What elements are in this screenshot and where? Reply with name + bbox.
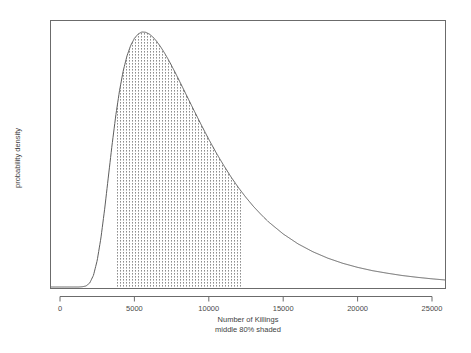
x-axis-subtitle: middle 80% shaded (215, 325, 281, 334)
y-axis-title: probability density (13, 128, 22, 188)
x-tick-label: 5000 (126, 304, 143, 313)
x-axis-title: Number of Killings (218, 315, 279, 324)
density-plot-figure: 0500010000150002000025000 Number of Kill… (0, 0, 471, 353)
figure-background (0, 0, 471, 353)
x-tick-label: 20000 (347, 304, 368, 313)
x-tick-label: 10000 (198, 304, 219, 313)
x-tick-label: 25000 (422, 304, 443, 313)
chart-svg: 0500010000150002000025000 Number of Kill… (0, 0, 471, 353)
x-tick-label: 0 (58, 304, 62, 313)
x-tick-label: 15000 (273, 304, 294, 313)
